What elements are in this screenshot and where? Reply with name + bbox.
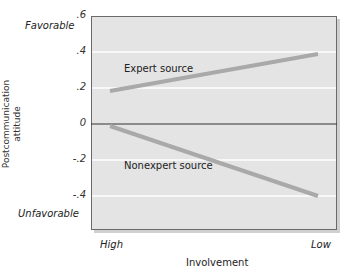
y-axis-title: Postcommunication attitude <box>1 80 23 168</box>
y-axis-title-line2: attitude <box>12 80 23 168</box>
y-axis-title-line1: Postcommunication <box>1 80 12 168</box>
chart-lines <box>0 0 352 277</box>
x-label-low: Low <box>311 239 331 250</box>
ytick-0.4: .4 <box>56 45 86 56</box>
unfavorable-label: Unfavorable <box>18 208 79 219</box>
ytick-0.2: .2 <box>56 81 86 92</box>
nonexpert-source-label: Nonexpert source <box>124 160 213 171</box>
ytick-0.6: .6 <box>56 9 86 20</box>
ytick--0.2: -.2 <box>56 153 86 164</box>
x-axis-title: Involvement <box>186 257 248 268</box>
expert-source-label: Expert source <box>124 63 193 74</box>
favorable-label: Favorable <box>25 20 74 31</box>
ytick--0.4: -.4 <box>56 189 86 200</box>
ytick-0: 0 <box>56 117 86 128</box>
x-label-high: High <box>100 239 123 250</box>
